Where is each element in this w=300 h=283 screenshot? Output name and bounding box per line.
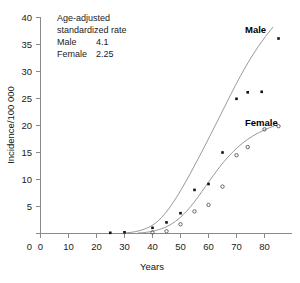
- male-fit-curve: [125, 27, 274, 233]
- y-tick-label-35: 35: [21, 39, 32, 50]
- x-tick-label-40: 40: [147, 241, 158, 252]
- annotation-female-value: 2.25: [96, 49, 114, 59]
- annotation-female-label: Female: [57, 49, 87, 59]
- annotation-block: Age-adjusted standardized rate Male 4.1 …: [57, 13, 127, 59]
- incidence-scatter-chart: 40 35 30 25 20 15 10 5 0 0 10 20 30 40 5…: [0, 0, 300, 283]
- x-tick-label-20: 20: [91, 241, 102, 252]
- x-tick-label-30: 30: [119, 241, 130, 252]
- x-tick-label-50: 50: [175, 241, 186, 252]
- y-tick-label-15: 15: [21, 147, 32, 158]
- y-axis-title: Incidence/100 000: [5, 86, 16, 164]
- x-tick-label-10: 10: [63, 241, 74, 252]
- y-tick-marks: [36, 18, 41, 234]
- annotation-line-2: standardized rate: [57, 25, 127, 35]
- annotation-male-label: Male: [57, 37, 77, 47]
- annotation-male-value: 4.1: [96, 37, 109, 47]
- series-label-male: Male: [245, 24, 266, 35]
- y-tick-label-40: 40: [21, 12, 32, 23]
- y-tick-label-0: 0: [27, 241, 32, 252]
- y-tick-label-30: 30: [21, 66, 32, 77]
- x-tick-label-80: 80: [259, 241, 270, 252]
- y-tick-label-20: 20: [21, 120, 32, 131]
- y-tick-label-5: 5: [27, 201, 32, 212]
- chart-container: 40 35 30 25 20 15 10 5 0 0 10 20 30 40 5…: [0, 0, 300, 283]
- female-series-points: [151, 125, 280, 235]
- female-fit-curve: [138, 126, 274, 233]
- series-label-female: Female: [245, 117, 278, 128]
- x-axis-title: Years: [140, 261, 164, 272]
- x-tick-label-70: 70: [231, 241, 242, 252]
- annotation-line-1: Age-adjusted: [57, 13, 110, 23]
- x-tick-label-60: 60: [203, 241, 214, 252]
- y-tick-label-10: 10: [21, 174, 32, 185]
- x-tick-label-0: 0: [38, 241, 43, 252]
- y-tick-label-25: 25: [21, 93, 32, 104]
